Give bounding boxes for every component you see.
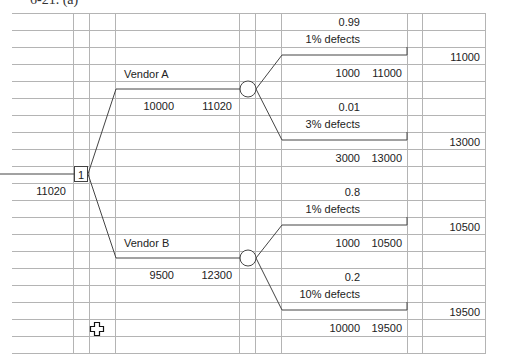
vendor-b-cost: 9500	[130, 268, 174, 282]
vendor-b-outcome-1-probability: 0.8	[300, 185, 360, 199]
branch-label-vendor-b: Vendor B	[124, 236, 169, 250]
vendor-a-expected-value: 11020	[188, 99, 232, 113]
vendor-b-outcome-1-terminal: 10500	[425, 220, 480, 234]
vendor-b-outcome-2-label: 10% defects	[290, 287, 360, 301]
vendor-a-outcome-1-probability: 0.99	[300, 15, 360, 29]
vendor-b-outcome-2-terminal: 19500	[425, 305, 480, 319]
decision-node: 1	[74, 166, 88, 182]
vendor-b-outcome-1-cumulative: 10500	[350, 236, 402, 250]
vendor-a-outcome-1-cumulative: 11000	[350, 66, 402, 80]
chance-node-b-icon	[240, 250, 256, 266]
chance-node-a-icon	[240, 81, 256, 97]
vendor-b-outcome-1-label: 1% defects	[290, 202, 360, 216]
vendor-a-outcome-1-label: 1% defects	[290, 32, 360, 46]
crosshair-plus-cursor-icon	[89, 321, 105, 337]
vendor-a-outcome-2-probability: 0.01	[300, 100, 360, 114]
vendor-a-outcome-2-cumulative: 13000	[350, 151, 402, 165]
vendor-b-expected-value: 12300	[188, 268, 232, 282]
branch-label-vendor-a: Vendor A	[124, 67, 169, 81]
decision-node-value: 11020	[20, 184, 66, 198]
vendor-a-outcome-1-terminal: 11000	[425, 50, 480, 64]
vendor-a-outcome-2-terminal: 13000	[425, 135, 480, 149]
vendor-a-cost: 10000	[130, 99, 174, 113]
vendor-b-outcome-2-cumulative: 19500	[350, 321, 402, 335]
vendor-b-outcome-2-probability: 0.2	[300, 270, 360, 284]
vendor-a-outcome-2-label: 3% defects	[290, 117, 360, 131]
